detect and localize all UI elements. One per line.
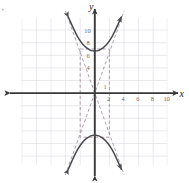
y-tick-label-8: 8: [87, 39, 90, 46]
coordinate-plane: 2 4 6 8 10 4 6 8 10 1 x y •: [0, 0, 189, 183]
x-tick-label-2: 2: [107, 95, 110, 102]
y-tick-label-10: 10: [84, 27, 90, 34]
x-tick-label-6: 6: [136, 95, 139, 102]
y-axis-label: y: [88, 1, 94, 12]
annotation-one: 1: [103, 83, 106, 90]
hyperbola-graph-figure: 2 4 6 8 10 4 6 8 10 1 x y •: [0, 0, 189, 183]
corner-mark: •: [2, 6, 5, 14]
x-tick-labels: 2 4 6 8 10: [107, 95, 170, 102]
x-tick-label-10: 10: [163, 95, 169, 102]
x-axis-label: x: [178, 88, 184, 99]
annotation-labels: 1: [103, 83, 106, 90]
x-tick-label-8: 8: [151, 95, 154, 102]
y-tick-label-6: 6: [87, 52, 90, 59]
x-tick-label-4: 4: [122, 95, 126, 102]
axes-group: [10, 9, 178, 176]
